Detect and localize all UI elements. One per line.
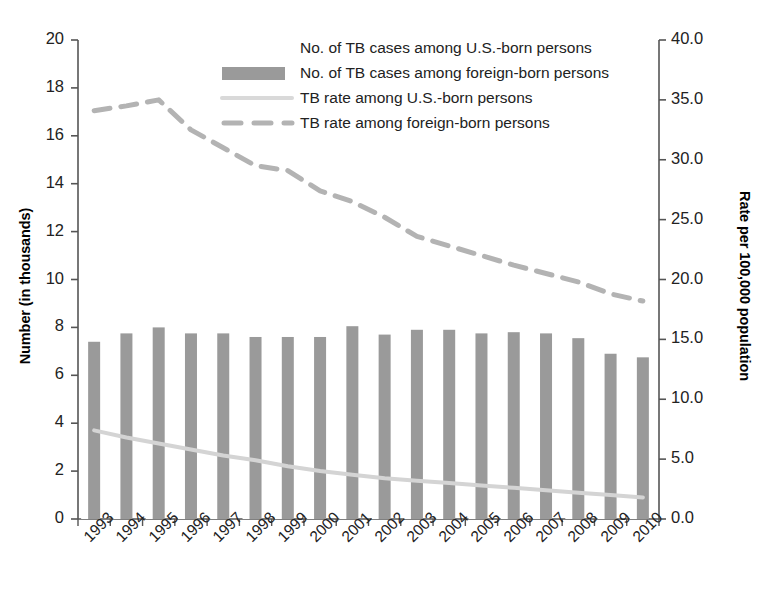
legend-swatch-bar <box>222 67 285 80</box>
y-tick-label-right: 25.0 <box>671 209 703 228</box>
y-tick-label-left: 14 <box>16 173 64 192</box>
bar-foreign-born <box>379 335 391 519</box>
bar-foreign-born <box>411 330 423 519</box>
bar-foreign-born <box>217 333 229 519</box>
tb-cases-and-rates-chart: Number (in thousands) Rate per 100,000 p… <box>0 0 767 598</box>
y-tick-label-left: 16 <box>16 125 64 144</box>
bar-foreign-born <box>153 327 165 519</box>
bar-foreign-born <box>120 333 132 519</box>
y-tick-label-right: 35.0 <box>671 89 703 108</box>
y-tick-label-left: 4 <box>16 412 64 431</box>
legend-item-label: TB rate among U.S.-born persons <box>300 89 533 107</box>
legend-item-label: TB rate among foreign-born persons <box>300 114 550 132</box>
y-tick-label-left: 20 <box>16 29 64 48</box>
legend-item-label: No. of TB cases among foreign-born perso… <box>300 64 609 82</box>
y-tick-label-left: 18 <box>16 77 64 96</box>
y-tick-label-left: 8 <box>16 316 64 335</box>
line-rate-us-born <box>94 430 643 497</box>
bar-foreign-born <box>314 337 326 519</box>
y-tick-label-right: 20.0 <box>671 269 703 288</box>
y-tick-label-right: 10.0 <box>671 388 703 407</box>
y-tick-label-left: 2 <box>16 460 64 479</box>
y-tick-label-right: 30.0 <box>671 149 703 168</box>
bars-layer <box>81 112 649 519</box>
legend-swatch-bar <box>222 42 285 55</box>
bar-foreign-born <box>346 326 358 519</box>
lines-layer <box>94 100 643 498</box>
y-tick-label-right: 40.0 <box>671 29 703 48</box>
y-tick-label-right: 15.0 <box>671 328 703 347</box>
y-tick-label-right: 0.0 <box>671 508 694 527</box>
y-tick-label-left: 0 <box>16 508 64 527</box>
y-tick-label-left: 6 <box>16 364 64 383</box>
bar-foreign-born <box>443 330 455 519</box>
bar-foreign-born <box>508 332 520 519</box>
y-tick-label-right: 5.0 <box>671 448 694 467</box>
y-tick-label-left: 10 <box>16 269 64 288</box>
bar-foreign-born <box>185 333 197 519</box>
legend-item-label: No. of TB cases among U.S.-born persons <box>300 39 592 57</box>
bar-foreign-born <box>637 357 649 519</box>
y-tick-label-left: 12 <box>16 221 64 240</box>
bar-foreign-born <box>250 337 262 519</box>
bar-foreign-born <box>475 333 487 519</box>
legend-markers <box>222 42 292 123</box>
bar-foreign-born <box>282 337 294 519</box>
